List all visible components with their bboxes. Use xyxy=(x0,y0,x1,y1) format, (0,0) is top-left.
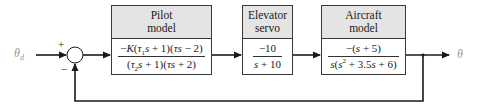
servo-transfer-function: −10 s + 10 xyxy=(243,42,292,74)
pilot-denominator: (τ2s + 1)(τs + 2) xyxy=(112,58,211,71)
pilot-model-header: Pilot model xyxy=(112,6,211,39)
pilot-title-2: model xyxy=(112,22,211,35)
pilot-model-block: Pilot model −K(τ1s + 1)(τs − 2) (τ2s + 1… xyxy=(111,5,212,75)
fraction-bar xyxy=(253,56,282,57)
pilot-numerator: −K(τ1s + 1)(τs − 2) xyxy=(112,42,211,55)
elevator-servo-header: Elevator servo xyxy=(243,6,292,39)
fraction-bar xyxy=(328,56,399,57)
output-label-theta: θ xyxy=(457,47,463,62)
servo-denominator: s + 10 xyxy=(243,58,292,71)
pilot-title-1: Pilot xyxy=(112,9,211,22)
elevator-servo-block: Elevator servo −10 s + 10 xyxy=(242,5,293,75)
signal-wires xyxy=(0,0,480,109)
aircraft-title-1: Aircraft xyxy=(322,9,405,22)
aircraft-transfer-function: −(s + 5) s(s2 + 3.5s + 6) xyxy=(322,42,405,74)
servo-title-2: servo xyxy=(243,22,292,35)
pilot-transfer-function: −K(τ1s + 1)(τs − 2) (τ2s + 1)(τs + 2) xyxy=(112,42,211,74)
servo-numerator: −10 xyxy=(243,42,292,55)
aircraft-title-2: model xyxy=(322,22,405,35)
takeoff-point xyxy=(421,53,424,56)
summing-junction xyxy=(67,47,83,63)
minus-sign: − xyxy=(61,63,67,75)
aircraft-model-block: Aircraft model −(s + 5) s(s2 + 3.5s + 6) xyxy=(321,5,406,75)
input-label-theta-d: θd xyxy=(14,46,24,61)
aircraft-model-header: Aircraft model xyxy=(322,6,405,39)
aircraft-numerator: −(s + 5) xyxy=(322,42,405,55)
plus-sign: + xyxy=(58,38,64,50)
servo-title-1: Elevator xyxy=(243,9,292,22)
fraction-bar xyxy=(118,56,205,57)
aircraft-denominator: s(s2 + 3.5s + 6) xyxy=(322,58,405,71)
